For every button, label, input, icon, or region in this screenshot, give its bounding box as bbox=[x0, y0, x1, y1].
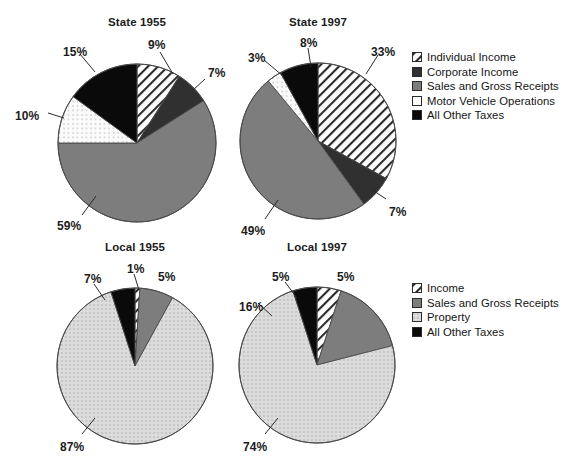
legend-swatch-icon bbox=[412, 298, 422, 308]
pie-local-1955 bbox=[53, 284, 217, 448]
legend-swatch-icon bbox=[412, 67, 422, 77]
legend-label: All Other Taxes bbox=[427, 326, 504, 338]
pct-label-state-1997-1: 7% bbox=[389, 205, 407, 219]
pct-label-state-1997-4: 8% bbox=[300, 36, 318, 50]
legend-state: Individual IncomeCorporate IncomeSales a… bbox=[412, 50, 559, 123]
pct-label-local-1997-0: 5% bbox=[337, 270, 355, 284]
legend-label: Income bbox=[427, 282, 464, 294]
pct-label-local-1997-1: 5% bbox=[272, 270, 290, 284]
legend-label: Motor Vehicle Operations bbox=[427, 95, 555, 107]
legend-local: IncomeSales and Gross ReceiptsPropertyAl… bbox=[412, 281, 559, 339]
legend-item[interactable]: Corporate Income bbox=[412, 65, 559, 80]
pct-label-local-1955-2: 7% bbox=[84, 272, 102, 286]
legend-item[interactable]: All Other Taxes bbox=[412, 325, 559, 340]
legend-swatch-icon bbox=[412, 283, 422, 293]
legend-item[interactable]: Property bbox=[412, 310, 559, 325]
legend-item[interactable]: Sales and Gross Receipts bbox=[412, 296, 559, 311]
legend-item[interactable]: Motor Vehicle Operations bbox=[412, 94, 559, 109]
pct-label-state-1997-2: 49% bbox=[241, 224, 265, 238]
legend-label: All Other Taxes bbox=[427, 109, 504, 121]
legend-swatch-icon bbox=[412, 52, 422, 62]
pie-state-1997 bbox=[236, 59, 400, 223]
legend-item[interactable]: Sales and Gross Receipts bbox=[412, 79, 559, 94]
legend-swatch-icon bbox=[412, 327, 422, 337]
legend-label: Individual Income bbox=[427, 51, 516, 63]
pct-label-local-1955-3: 87% bbox=[60, 440, 84, 454]
pie-state-1955 bbox=[54, 60, 220, 226]
pct-label-state-1955-3: 10% bbox=[15, 109, 39, 123]
legend-swatch-icon bbox=[412, 110, 422, 120]
figure-root: State 19559%7%59%10%15%State 199733%7%49… bbox=[0, 0, 579, 476]
chart-title-local-1955: Local 1955 bbox=[65, 241, 205, 253]
legend-label: Corporate Income bbox=[427, 66, 518, 78]
legend-label: Sales and Gross Receipts bbox=[427, 80, 559, 92]
chart-title-local-1997: Local 1997 bbox=[247, 241, 387, 253]
legend-item[interactable]: Income bbox=[412, 281, 559, 296]
chart-title-state-1997: State 1997 bbox=[248, 16, 388, 28]
legend-item[interactable]: Individual Income bbox=[412, 50, 559, 65]
legend-swatch-icon bbox=[412, 312, 422, 322]
chart-title-state-1955: State 1955 bbox=[67, 16, 207, 28]
pct-label-local-1955-0: 5% bbox=[158, 270, 176, 284]
pct-label-state-1997-3: 3% bbox=[248, 51, 266, 65]
legend-swatch-icon bbox=[412, 81, 422, 91]
legend-label: Property bbox=[427, 311, 470, 323]
pct-label-state-1997-0: 33% bbox=[371, 45, 395, 59]
pct-label-local-1955-1: 1% bbox=[127, 262, 145, 276]
pct-label-local-1997-2: 16% bbox=[239, 300, 263, 314]
pct-label-local-1997-3: 74% bbox=[243, 440, 267, 454]
legend-item[interactable]: All Other Taxes bbox=[412, 108, 559, 123]
legend-swatch-icon bbox=[412, 96, 422, 106]
pct-label-state-1955-1: 7% bbox=[208, 66, 226, 80]
pct-label-state-1955-0: 9% bbox=[148, 38, 166, 52]
pct-label-state-1955-4: 15% bbox=[63, 45, 87, 59]
pct-label-state-1955-2: 59% bbox=[57, 219, 81, 233]
legend-label: Sales and Gross Receipts bbox=[427, 297, 559, 309]
